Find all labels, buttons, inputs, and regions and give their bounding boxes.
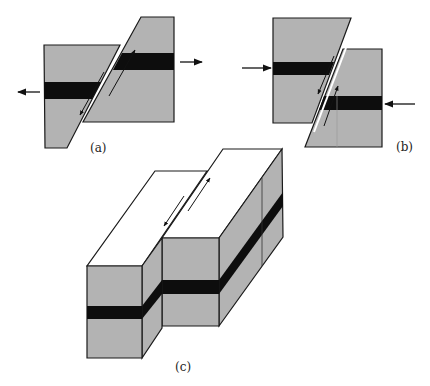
panel-a: (a) [18,17,202,155]
panel-b-label: (b) [396,140,413,154]
panel-c-label: (c) [175,360,191,374]
panel-a-label: (a) [90,141,107,155]
panel-c: (c) [87,149,283,374]
fault-diagram-figure: (a) (b) [0,0,430,386]
panel-b: (b) [242,18,415,154]
